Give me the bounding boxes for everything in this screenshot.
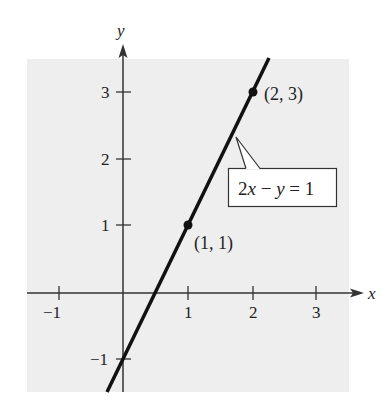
chart-canvas: x y −1 1 2 3 3 2 1 −1 (1, 1) (2, 3) 2x −… (0, 0, 392, 411)
data-point (249, 88, 258, 97)
point-label: (1, 1) (194, 233, 233, 254)
x-tick-label: 2 (249, 303, 258, 322)
y-tick-label: −1 (90, 350, 108, 369)
x-tick-label: −1 (43, 303, 61, 322)
y-tick-label: 1 (101, 216, 110, 235)
x-axis-label: x (367, 284, 376, 303)
y-tick-label: 3 (101, 83, 110, 102)
equation-label: 2x − y = 1 (238, 178, 314, 199)
point-label: (2, 3) (264, 84, 303, 105)
y-axis-label: y (115, 21, 125, 40)
data-point (184, 221, 193, 230)
y-tick-label: 2 (101, 150, 110, 169)
x-tick-label: 3 (312, 303, 321, 322)
x-tick-label: 1 (184, 303, 193, 322)
